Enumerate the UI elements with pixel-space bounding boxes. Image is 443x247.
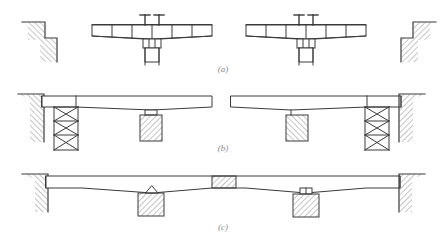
right-cantilever-deck-segmented: [246, 25, 366, 40]
right-deck-girder: [231, 96, 401, 110]
right-abutment-hatched-c: [399, 174, 425, 212]
left-deck-girder: [42, 96, 212, 110]
left-pier-shaft: [143, 39, 161, 65]
right-abutment-stepped-hatched: [401, 22, 436, 62]
bridge-construction-stages-figure: [0, 0, 443, 247]
panel-c: [22, 174, 425, 217]
left-form-traveler-posts: [140, 15, 164, 25]
panel-a: [22, 15, 436, 65]
right-pier-shaft: [297, 39, 315, 65]
panel-a-caption: (a): [203, 64, 243, 74]
right-form-traveler-posts: [294, 15, 318, 25]
midspan-closure-segment-hatched: [212, 176, 236, 188]
panel-b: [18, 94, 425, 150]
panel-b-caption: (b): [203, 143, 243, 153]
left-abutment-stepped-hatched: [22, 22, 57, 62]
right-abutment-hatched-b: [399, 94, 425, 142]
left-cantilever-deck-segmented: [92, 25, 212, 40]
right-falsework-tower: [365, 107, 389, 150]
right-concrete-pier-hatched-b: [286, 110, 308, 141]
left-abutment-hatched-c: [22, 174, 48, 212]
panel-c-caption: (c): [203, 222, 243, 232]
left-falsework-tower: [54, 107, 78, 150]
left-abutment-hatched-b: [18, 94, 44, 142]
left-concrete-pier-hatched-b: [140, 110, 162, 141]
